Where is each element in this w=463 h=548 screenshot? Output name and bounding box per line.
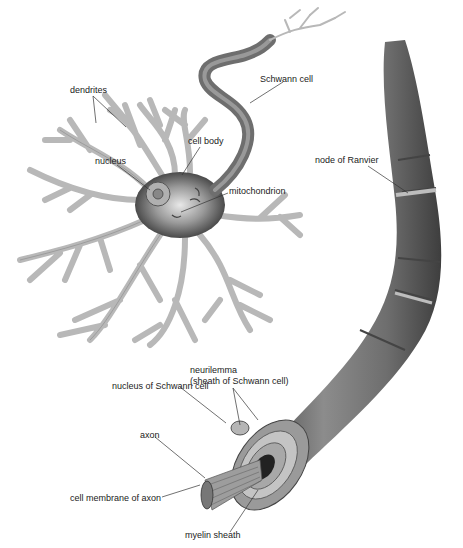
cell-body-shape bbox=[135, 172, 225, 238]
neuron-diagram: dendrites cell body nucleus mitochondrio… bbox=[0, 0, 463, 548]
label-myelin-sheath: myelin sheath bbox=[185, 530, 241, 541]
label-dendrites: dendrites bbox=[70, 85, 107, 96]
label-neurilemma: neurilemma bbox=[190, 365, 237, 376]
neuron-illustration bbox=[0, 0, 463, 548]
label-mitochondrion: mitochondrion bbox=[229, 186, 286, 197]
label-cell-body: cell body bbox=[188, 136, 224, 147]
label-cell-membrane-of-axon: cell membrane of axon bbox=[70, 493, 161, 504]
label-schwann-cell: Schwann cell bbox=[260, 74, 313, 85]
label-nucleus: nucleus bbox=[95, 156, 126, 167]
label-axon: axon bbox=[140, 430, 160, 441]
label-nucleus-of-schwann-cell: nucleus of Schwann cell bbox=[112, 381, 209, 392]
label-node-of-ranvier: node of Ranvier bbox=[315, 155, 379, 166]
